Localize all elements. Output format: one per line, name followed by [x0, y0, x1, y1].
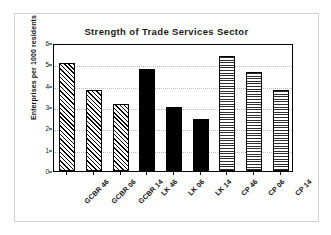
y-tick-mark — [49, 65, 52, 66]
bar-lk-46 — [139, 69, 155, 171]
x-axis-tick-labels: GCBR 46GCBR 06GCBR 14LK 46LK 06LK 14CP 4… — [53, 172, 293, 228]
x-tick-label: CP 46 — [240, 178, 259, 197]
bar-cp-06 — [246, 72, 262, 171]
plot-area — [53, 44, 293, 172]
bar-cp-14 — [273, 90, 289, 171]
x-tick-mark — [146, 172, 147, 175]
x-tick-mark — [120, 172, 121, 175]
x-tick-mark — [253, 172, 254, 175]
x-tick-mark — [280, 172, 281, 175]
x-tick-mark — [93, 172, 94, 175]
x-tick-mark — [66, 172, 67, 175]
y-tick-mark — [49, 129, 52, 130]
x-tick-label: LK 06 — [187, 178, 206, 197]
bar-gcbr-46 — [59, 63, 75, 171]
bar-cp-46 — [219, 56, 235, 171]
x-tick-label: GCBR 46 — [83, 178, 110, 205]
bar-gcbr-06 — [86, 90, 102, 171]
y-tick-mark — [49, 108, 52, 109]
bars-layer — [54, 45, 292, 171]
x-tick-mark — [226, 172, 227, 175]
x-tick-label: LK 14 — [213, 178, 232, 197]
x-tick-label: GCBR 06 — [110, 178, 137, 205]
bar-gcbr-14 — [113, 104, 129, 171]
y-tick-mark — [49, 150, 52, 151]
y-tick-mark — [49, 44, 52, 45]
y-axis-tick-labels: 0123456 — [33, 44, 51, 172]
chart-title: Strength of Trade Services Sector — [15, 26, 318, 37]
bar-lk-06 — [166, 107, 182, 171]
y-tick-mark — [49, 86, 52, 87]
x-tick-label: CP 06 — [267, 178, 286, 197]
x-tick-mark — [173, 172, 174, 175]
bar-lk-14 — [193, 119, 209, 171]
x-tick-label: LK 46 — [160, 178, 179, 197]
chart-frame: Strength of Trade Services Sector Enterp… — [14, 13, 319, 222]
x-tick-mark — [200, 172, 201, 175]
x-tick-label: CP 14 — [293, 178, 312, 197]
y-tick-mark — [49, 172, 52, 173]
